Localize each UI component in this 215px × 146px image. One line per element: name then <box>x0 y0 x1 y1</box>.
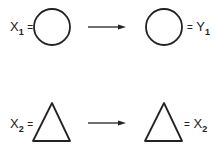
circle-shape-right <box>146 9 182 45</box>
triangle-shape-left <box>33 103 70 141</box>
circle-shape-left <box>34 9 70 45</box>
right-arrow-icon <box>88 121 126 126</box>
label-y1: = Y1 <box>187 20 210 39</box>
label-x2-left: X2 = <box>10 117 33 136</box>
label-x1: X1 = <box>10 20 33 39</box>
right-arrow-icon <box>88 25 126 30</box>
triangle-shape-right <box>145 103 182 141</box>
label-x2-right: = X2 <box>184 117 207 136</box>
